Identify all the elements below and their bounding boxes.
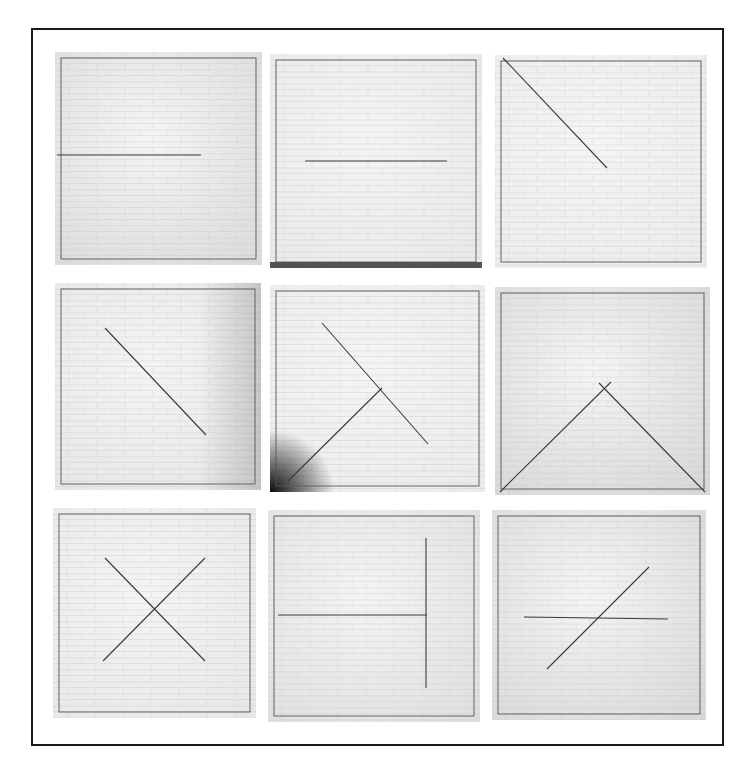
wall-drawing-photo-6 (495, 287, 710, 495)
wall-drawing-photo-4 (55, 283, 261, 490)
wall-drawing-photo-7 (53, 508, 256, 718)
wall-drawing-photo-5 (270, 285, 485, 492)
wall-drawing-photo-3 (495, 55, 707, 268)
wall-drawing-photo-1 (55, 52, 262, 265)
wall-drawing-photo-8 (268, 510, 480, 722)
wall-drawing-photo-9 (492, 510, 706, 720)
wall-drawing-photo-2 (270, 54, 482, 268)
